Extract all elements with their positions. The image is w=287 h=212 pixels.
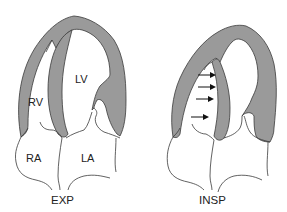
label-lv: LV — [75, 73, 88, 85]
exp-septum — [48, 30, 72, 137]
caption-insp: INSP — [199, 194, 226, 206]
exp-interatrial-septum — [58, 138, 62, 190]
label-rv: RV — [28, 96, 44, 108]
caption-exp: EXP — [51, 194, 74, 206]
arrowhead-icon — [203, 114, 209, 120]
exp-outer-myocardium — [19, 16, 126, 137]
arrowhead-icon — [210, 84, 216, 90]
exp-left-atrium-outline — [68, 138, 116, 190]
label-ra: RA — [26, 152, 42, 164]
arrowhead-icon — [208, 96, 214, 102]
label-la: LA — [81, 152, 95, 164]
insp-septum — [212, 59, 230, 140]
exp-heart: RV LV RA LA EXP — [15, 16, 126, 206]
heart-diagram: RV LV RA LA EXP INSP — [0, 0, 287, 212]
insp-heart: INSP — [167, 25, 276, 206]
